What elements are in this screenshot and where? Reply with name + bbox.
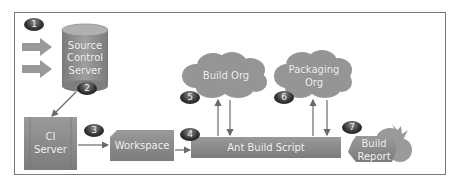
ci-server-label-2: Server — [24, 144, 77, 156]
input-arrow-icon — [22, 38, 52, 56]
step-badge-5: 5 — [180, 91, 200, 104]
packaging-org-label-1: Packaging — [284, 64, 344, 76]
step-badge-7: 7 — [342, 121, 362, 134]
build-org-label: Build Org — [196, 70, 256, 82]
step-badge-6: 6 — [274, 91, 294, 104]
arrow-source-to-ci — [52, 92, 76, 116]
source-control-label-1: Source — [62, 40, 108, 52]
step-badge-3: 3 — [84, 124, 104, 137]
source-control-label-2: Control — [62, 52, 108, 64]
step-badge-2: 2 — [77, 82, 97, 95]
workspace-label: Workspace — [110, 140, 174, 152]
step-badge-4: 4 — [180, 128, 200, 141]
ant-build-script-label: Ant Build Script — [191, 142, 341, 154]
build-report-label-2: Report — [356, 151, 392, 163]
ci-server-label-1: CI — [24, 131, 77, 143]
step-badge-1: 1 — [24, 18, 44, 31]
source-control-label-3: Server — [62, 65, 108, 77]
input-arrow-icon — [22, 60, 52, 78]
packaging-org-label-2: Org — [284, 77, 344, 89]
build-report-label-1: Build — [356, 138, 392, 150]
